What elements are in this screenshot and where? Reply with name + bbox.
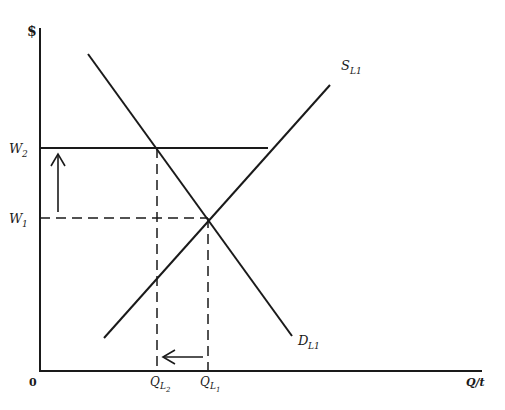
ql2-label: Q L 2 [150,375,171,394]
svg-text:S: S [341,58,350,73]
svg-text:L1: L1 [349,66,362,76]
y-axis-label: $ [27,23,37,39]
w2-label: W 2 [9,141,28,159]
quantity-decrease-arrow [163,350,203,364]
origin-label: 0 [29,376,37,389]
svg-text:L: L [209,381,216,391]
x-axis-label: Q/t [466,376,485,389]
svg-text:1: 1 [216,386,220,394]
demand-curve [88,54,292,336]
svg-text:2: 2 [165,386,171,394]
w1-label: W 1 [9,211,28,229]
svg-text:Q: Q [150,375,160,389]
ql1-label: Q L 1 [200,375,220,394]
wage-increase-arrow [51,154,65,212]
svg-text:L1: L1 [307,341,320,351]
demand-label: D L1 [297,333,320,351]
labor-market-diagram: $ 0 Q/t W 2 W 1 Q L 2 Q L 1 S L1 D L1 [0,0,505,410]
svg-text:L: L [159,381,166,391]
svg-text:1: 1 [22,219,28,229]
supply-label: S L1 [341,58,362,76]
svg-text:2: 2 [21,149,28,159]
svg-text:Q: Q [200,375,210,389]
